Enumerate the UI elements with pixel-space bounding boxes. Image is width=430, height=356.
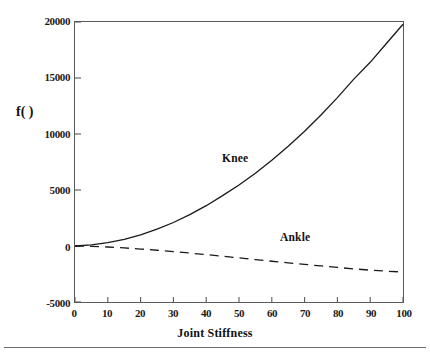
- series-line-knee: [75, 24, 403, 246]
- y-tick-label: 5000: [8, 185, 70, 196]
- y-tick-label: 10000: [8, 129, 70, 140]
- chart-figure: f( ) -500005000100001500020000 010203040…: [0, 0, 430, 356]
- series-paths: [75, 24, 403, 272]
- x-tick-label: 100: [384, 308, 424, 319]
- y-tick-label: 15000: [8, 72, 70, 83]
- footer-rule: [4, 347, 426, 348]
- x-tick-marks: [75, 297, 403, 302]
- y-tick-label: 0: [8, 242, 70, 253]
- x-axis-label: Joint Stiffness: [0, 326, 430, 341]
- y-tick-marks: [75, 22, 81, 302]
- series-annotation-ankle: Ankle: [280, 231, 310, 243]
- y-tick-label: 20000: [8, 16, 70, 27]
- series-annotation-knee: Knee: [222, 152, 248, 164]
- y-axis-label: f( ): [16, 104, 34, 120]
- series-line-ankle: [75, 246, 403, 272]
